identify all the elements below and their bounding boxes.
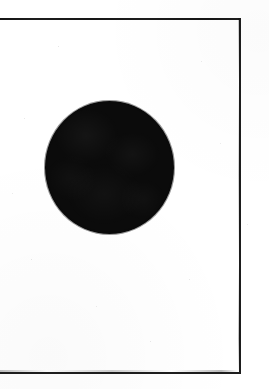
- scanned-figure-page: [0, 0, 269, 389]
- black-circle-figure: [45, 101, 174, 234]
- black-circle-fill: [45, 101, 174, 234]
